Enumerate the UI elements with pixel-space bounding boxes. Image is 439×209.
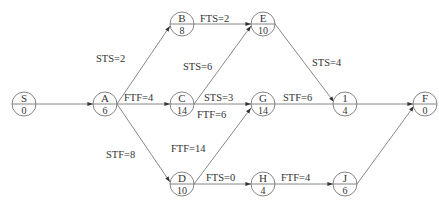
edge-label-g-1: STF=6 bbox=[283, 92, 312, 103]
node-f-duration: 0 bbox=[423, 105, 428, 116]
edge-label-h-j: FTF=4 bbox=[281, 172, 311, 183]
node-h-duration: 4 bbox=[261, 185, 266, 196]
node-c-duration: 14 bbox=[177, 105, 187, 116]
edge-label-d-g: FTF=14 bbox=[171, 143, 206, 154]
node-f: F 0 bbox=[413, 92, 437, 116]
node-d: D 10 bbox=[170, 172, 194, 196]
node-1-duration: 4 bbox=[343, 105, 348, 116]
node-g-label: G bbox=[259, 92, 267, 104]
edge-label-c-g-ftf: FTF=6 bbox=[197, 109, 226, 120]
node-a: A 6 bbox=[93, 92, 117, 116]
edge-j-f bbox=[357, 106, 414, 184]
node-b-label: B bbox=[178, 12, 185, 24]
node-e: E 10 bbox=[251, 12, 275, 36]
edge-label-d-h: FTS=0 bbox=[206, 172, 235, 183]
node-e-duration: 10 bbox=[258, 25, 268, 36]
node-a-duration: 6 bbox=[103, 105, 108, 116]
node-s-label: S bbox=[21, 92, 27, 104]
node-d-label: D bbox=[178, 172, 186, 184]
node-e-label: E bbox=[260, 12, 267, 24]
node-h-label: H bbox=[259, 172, 267, 184]
node-g: G 14 bbox=[251, 92, 275, 116]
node-1-label: 1 bbox=[342, 92, 348, 104]
edge-label-b-e: FTS=2 bbox=[200, 13, 229, 24]
node-c-label: C bbox=[178, 92, 185, 104]
node-s-duration: 0 bbox=[22, 105, 27, 116]
node-b-duration: 8 bbox=[180, 25, 185, 36]
node-j-duration: 6 bbox=[343, 185, 348, 196]
edge-label-a-b: STS=2 bbox=[96, 53, 125, 64]
edge-label-c-g-sts: STS=3 bbox=[204, 92, 233, 103]
node-b: B 8 bbox=[170, 12, 194, 36]
edge-label-e-1: STS=4 bbox=[312, 57, 342, 68]
node-g-duration: 14 bbox=[258, 105, 268, 116]
node-1: 1 4 bbox=[333, 92, 357, 116]
edge-label-c-e: STS=6 bbox=[183, 61, 212, 72]
edge-a-d bbox=[117, 104, 170, 182]
node-s: S 0 bbox=[12, 92, 36, 116]
node-c: C 14 bbox=[170, 92, 194, 116]
edge-label-a-d: STF=8 bbox=[106, 149, 135, 160]
node-h: H 4 bbox=[251, 172, 275, 196]
node-j-label: J bbox=[343, 172, 348, 184]
node-f-label: F bbox=[422, 92, 428, 104]
node-d-duration: 10 bbox=[177, 185, 187, 196]
edge-labels: STS=2 FTF=4 STF=8 FTS=2 STS=6 STS=3 FTF=… bbox=[96, 13, 342, 183]
node-j: J 6 bbox=[333, 172, 357, 196]
edge-label-a-c: FTF=4 bbox=[124, 92, 154, 103]
node-a-label: A bbox=[101, 92, 109, 104]
precedence-network-diagram: STS=2 FTF=4 STF=8 FTS=2 STS=6 STS=3 FTF=… bbox=[0, 0, 439, 209]
